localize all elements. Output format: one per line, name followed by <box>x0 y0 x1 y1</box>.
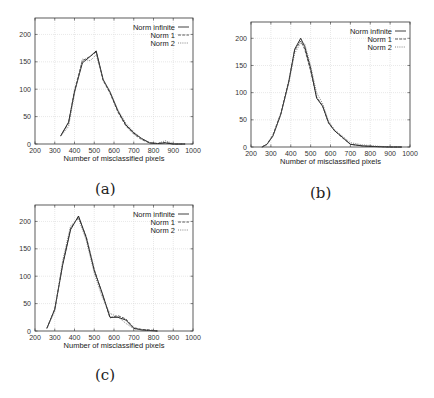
x-axis-label: Number of misclassified pixels <box>64 341 165 350</box>
series-norm-2 <box>47 219 157 331</box>
svg-text:200: 200 <box>29 334 41 341</box>
series-norm-1 <box>47 217 157 331</box>
svg-text:50: 50 <box>23 300 31 307</box>
svg-text:700: 700 <box>128 334 140 341</box>
svg-text:0: 0 <box>27 328 31 335</box>
svg-text:800: 800 <box>148 334 160 341</box>
chart-svg: 2003004005006007008009001000050100150200… <box>0 0 434 398</box>
svg-text:100: 100 <box>19 273 31 280</box>
svg-text:200: 200 <box>19 218 31 225</box>
svg-text:150: 150 <box>19 245 31 252</box>
legend-label: Norm 2 <box>150 226 175 235</box>
chart-c: 2003004005006007008009001000050100150200… <box>0 0 434 398</box>
legend: Norm infiniteNorm 1Norm 2 <box>133 210 189 235</box>
svg-text:400: 400 <box>69 334 81 341</box>
svg-text:900: 900 <box>167 334 179 341</box>
svg-text:1000: 1000 <box>185 334 201 341</box>
series-norm-infinite <box>47 216 157 331</box>
svg-text:500: 500 <box>88 334 100 341</box>
svg-text:600: 600 <box>108 334 120 341</box>
caption-c: (c) <box>95 366 115 384</box>
svg-text:300: 300 <box>49 334 61 341</box>
